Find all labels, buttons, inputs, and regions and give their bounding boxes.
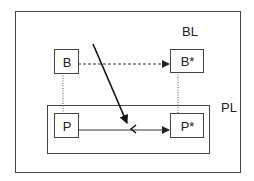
inner-box-label-pl: PL (221, 101, 237, 114)
node-pstar-label: P* (171, 114, 204, 138)
node-p-label: P (55, 114, 79, 138)
node-b-label: B (55, 50, 79, 74)
diagonal-arrow (93, 44, 127, 123)
diagram-canvas: B B* P P* BL PL (0, 0, 254, 181)
node-bstar-label: B* (171, 50, 204, 73)
diagram-svg (0, 0, 254, 181)
outer-box-label-bl: BL (182, 25, 198, 38)
outer-box-bl (16, 12, 241, 173)
intersection-mark-icon (131, 125, 136, 133)
